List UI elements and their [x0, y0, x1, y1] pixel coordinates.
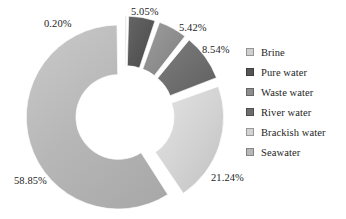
- doughnut-slice-brine: [125, 16, 126, 66]
- doughnut-slice-group: [26, 16, 223, 209]
- legend-item-brine[interactable]: Brine: [246, 42, 344, 62]
- legend-item-label: River water: [261, 107, 311, 118]
- slice-value-label: 0.20%: [44, 18, 72, 29]
- legend-item-label: Waste water: [261, 87, 313, 98]
- legend-item-label: Pure water: [261, 67, 307, 78]
- legend-item-seawater[interactable]: Seawater: [246, 142, 344, 162]
- doughnut-slice-seawater: [26, 25, 168, 209]
- legend-item-label: Brackish water: [261, 127, 326, 138]
- slice-value-label: 58.85%: [14, 175, 47, 186]
- legend-swatch-icon: [246, 108, 254, 116]
- doughnut-chart-figure: 0.20%5.05%5.42%8.54%21.24%58.85% BrinePu…: [0, 0, 346, 219]
- legend-swatch-icon: [246, 148, 254, 156]
- legend-item-river-water[interactable]: River water: [246, 102, 344, 122]
- legend-item-label: Seawater: [261, 147, 300, 158]
- slice-value-label: 5.05%: [131, 6, 159, 17]
- slice-value-label: 5.42%: [179, 22, 207, 33]
- legend-swatch-icon: [246, 128, 254, 136]
- legend-item-waste-water[interactable]: Waste water: [246, 82, 344, 102]
- legend-swatch-icon: [246, 88, 254, 96]
- chart-legend: BrinePure waterWaste waterRiver waterBra…: [246, 42, 344, 162]
- slice-value-label: 8.54%: [202, 44, 230, 55]
- slice-value-label: 21.24%: [211, 172, 244, 183]
- legend-item-label: Brine: [261, 47, 285, 58]
- legend-swatch-icon: [246, 48, 254, 56]
- legend-item-brackish-water[interactable]: Brackish water: [246, 122, 344, 142]
- legend-swatch-icon: [246, 68, 254, 76]
- legend-item-pure-water[interactable]: Pure water: [246, 62, 344, 82]
